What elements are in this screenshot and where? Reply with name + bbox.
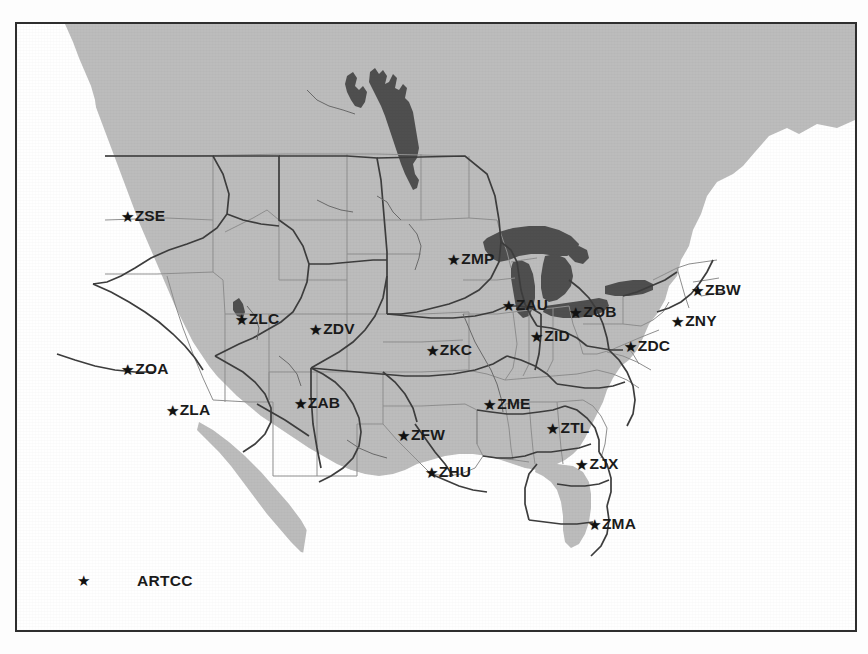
legend-label-artcc: ARTCC [137, 572, 193, 590]
artcc-label: ZDC [638, 337, 670, 355]
artcc-label: ZOA [135, 360, 168, 378]
star-icon: ★ [483, 397, 496, 412]
artcc-marker-zny[interactable]: ★ ZNY [671, 312, 717, 330]
star-icon: ★ [309, 322, 322, 337]
artcc-label: ZLA [180, 401, 211, 419]
star-icon: ★ [121, 362, 134, 377]
star-icon: ★ [502, 298, 515, 313]
map-legend: ★ ARTCC [77, 572, 193, 590]
artcc-map-page: ★ ZSE ★ ZLC ★ ZDV ★ ZOA ★ ZLA ★ ZAB ★ ZK… [0, 0, 868, 654]
artcc-label: ZMP [461, 250, 494, 268]
artcc-marker-zma[interactable]: ★ ZMA [588, 515, 636, 533]
artcc-label: ZMA [602, 515, 636, 533]
artcc-label: ZLC [249, 310, 280, 328]
artcc-label: ZOB [583, 303, 616, 321]
star-icon: ★ [691, 283, 704, 298]
artcc-marker-zdc[interactable]: ★ ZDC [624, 337, 670, 355]
star-icon: ★ [425, 465, 438, 480]
artcc-label: ZKC [440, 341, 472, 359]
star-icon: ★ [530, 329, 543, 344]
artcc-marker-zmp[interactable]: ★ ZMP [447, 250, 494, 268]
artcc-marker-zla[interactable]: ★ ZLA [166, 401, 211, 419]
artcc-marker-zid[interactable]: ★ ZID [530, 327, 570, 345]
artcc-label: ZID [544, 327, 570, 345]
artcc-marker-zab[interactable]: ★ ZAB [294, 394, 340, 412]
map-frame: ★ ZSE ★ ZLC ★ ZDV ★ ZOA ★ ZLA ★ ZAB ★ ZK… [15, 22, 857, 632]
artcc-marker-zse[interactable]: ★ ZSE [121, 207, 166, 225]
star-icon: ★ [121, 209, 134, 224]
star-icon: ★ [426, 343, 439, 358]
artcc-marker-zob[interactable]: ★ ZOB [569, 303, 616, 321]
artcc-marker-zme[interactable]: ★ ZME [483, 395, 530, 413]
artcc-label: ZAB [308, 394, 340, 412]
artcc-label: ZME [497, 395, 530, 413]
star-icon: ★ [235, 312, 248, 327]
artcc-marker-zhu[interactable]: ★ ZHU [425, 463, 471, 481]
artcc-label: ZTL [560, 419, 589, 437]
star-icon: ★ [671, 314, 684, 329]
artcc-marker-zkc[interactable]: ★ ZKC [426, 341, 472, 359]
star-icon: ★ [546, 421, 559, 436]
artcc-label: ZAU [516, 296, 548, 314]
artcc-label: ZJX [589, 455, 618, 473]
star-icon: ★ [575, 457, 588, 472]
artcc-marker-zlc[interactable]: ★ ZLC [235, 310, 280, 328]
star-icon: ★ [77, 572, 137, 590]
star-icon: ★ [294, 396, 307, 411]
artcc-label: ZNY [685, 312, 717, 330]
artcc-label: ZHU [439, 463, 471, 481]
artcc-label: ZBW [705, 281, 741, 299]
artcc-marker-zau[interactable]: ★ ZAU [502, 296, 548, 314]
artcc-marker-zdv[interactable]: ★ ZDV [309, 320, 355, 338]
artcc-marker-ztl[interactable]: ★ ZTL [546, 419, 589, 437]
star-icon: ★ [447, 252, 460, 267]
star-icon: ★ [397, 428, 410, 443]
artcc-label: ZDV [323, 320, 355, 338]
artcc-marker-zjx[interactable]: ★ ZJX [575, 455, 618, 473]
star-icon: ★ [624, 339, 637, 354]
map-graphic [17, 24, 855, 630]
star-icon: ★ [588, 517, 601, 532]
artcc-marker-zbw[interactable]: ★ ZBW [691, 281, 741, 299]
star-icon: ★ [569, 305, 582, 320]
artcc-label: ZFW [411, 426, 445, 444]
artcc-marker-zfw[interactable]: ★ ZFW [397, 426, 445, 444]
star-icon: ★ [166, 403, 179, 418]
artcc-marker-zoa[interactable]: ★ ZOA [121, 360, 168, 378]
artcc-label: ZSE [135, 207, 166, 225]
